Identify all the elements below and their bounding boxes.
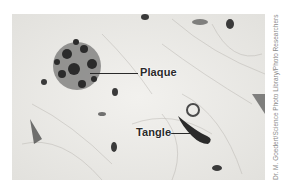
photo-credit: Dr. M. Goedert/Science Photo Library/Pho…: [272, 15, 279, 180]
plaque-leader-line: [90, 73, 138, 74]
micrograph-photo: Plaque Tangle: [12, 14, 265, 180]
tangle-label: Tangle: [136, 126, 171, 138]
tissue-texture: [12, 14, 265, 180]
tangle-leader-line: [169, 133, 191, 134]
plaque-label: Plaque: [140, 66, 177, 78]
